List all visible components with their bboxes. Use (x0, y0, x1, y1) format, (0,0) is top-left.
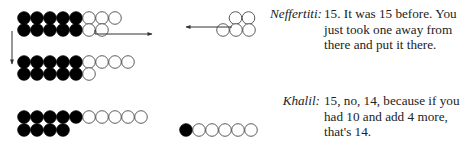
filled-bead-icon (57, 124, 70, 137)
dialogue-line: 15, no, 14, because if you (324, 93, 460, 109)
empty-bead-icon (83, 111, 96, 124)
dialogue-neffertiti: Neffertiti: 15. It was 15 before. You ju… (270, 6, 476, 66)
empty-bead-icon (122, 111, 135, 124)
filled-bead-icon (57, 12, 70, 25)
dialogue-line: just took one away from (324, 22, 452, 38)
filled-bead-icon (44, 68, 57, 81)
empty-bead-icon (193, 124, 206, 137)
empty-bead-icon (243, 24, 256, 37)
filled-bead-icon (57, 111, 70, 124)
dialogue-line: that's 14. (324, 124, 371, 140)
filled-bead-icon (18, 56, 31, 69)
empty-bead-icon (206, 124, 219, 137)
filled-bead-icon (44, 124, 57, 137)
dialogue-line: had 10 and add 4 more, (324, 109, 448, 125)
filled-bead-icon (70, 68, 83, 81)
empty-bead-icon (229, 12, 242, 25)
empty-bead-icon (245, 124, 258, 137)
empty-bead-icon (109, 12, 122, 25)
empty-bead-icon (83, 12, 96, 25)
empty-bead-icon (232, 124, 245, 137)
empty-bead-icon (83, 24, 96, 37)
filled-bead-icon (57, 24, 70, 37)
dialogue-line: 15. It was 15 before. You (324, 6, 457, 22)
filled-bead-icon (31, 24, 44, 37)
empty-bead-icon (242, 12, 255, 25)
empty-bead-icon (230, 24, 243, 37)
filled-bead-icon (70, 24, 83, 37)
group-initial-15 (18, 12, 122, 37)
empty-bead-icon (217, 24, 230, 37)
filled-bead-icon (70, 12, 83, 25)
filled-bead-icon (44, 56, 57, 69)
filled-bead-icon (31, 124, 44, 137)
filled-bead-icon (57, 68, 70, 81)
filled-bead-icon (18, 12, 31, 25)
empty-bead-icon (96, 111, 109, 124)
filled-bead-icon (44, 12, 57, 25)
speaker-label: Khalil: (270, 93, 320, 109)
filled-bead-icon (31, 56, 44, 69)
group-14 (18, 111, 148, 137)
filled-bead-icon (70, 56, 83, 69)
filled-bead-icon (31, 12, 44, 25)
empty-bead-icon (109, 111, 122, 124)
filled-bead-icon (18, 124, 31, 137)
filled-bead-icon (180, 124, 193, 137)
dialogue-line: there and put it there. (324, 37, 436, 53)
speaker-label: Neffertiti: (270, 6, 320, 22)
filled-bead-icon (31, 111, 44, 124)
empty-bead-icon (83, 56, 96, 69)
filled-bead-icon (57, 56, 70, 69)
filled-bead-icon (18, 24, 31, 37)
group-cluster-5 (217, 12, 256, 37)
empty-bead-icon (96, 56, 109, 69)
filled-bead-icon (31, 68, 44, 81)
filled-bead-icon (44, 24, 57, 37)
empty-bead-icon (96, 12, 109, 25)
empty-bead-icon (109, 56, 122, 69)
filled-bead-icon (18, 111, 31, 124)
empty-bead-icon (122, 56, 135, 69)
empty-bead-icon (219, 124, 232, 137)
filled-bead-icon (44, 111, 57, 124)
dialogue-khalil: Khalil: 15, no, 14, because if you had 1… (270, 93, 476, 149)
group-removed-6 (180, 124, 258, 137)
empty-bead-icon (83, 68, 96, 81)
group-moved-15 (18, 56, 135, 81)
filled-bead-icon (70, 111, 83, 124)
filled-bead-icon (18, 68, 31, 81)
empty-bead-icon (135, 111, 148, 124)
bead-diagram (0, 0, 270, 149)
